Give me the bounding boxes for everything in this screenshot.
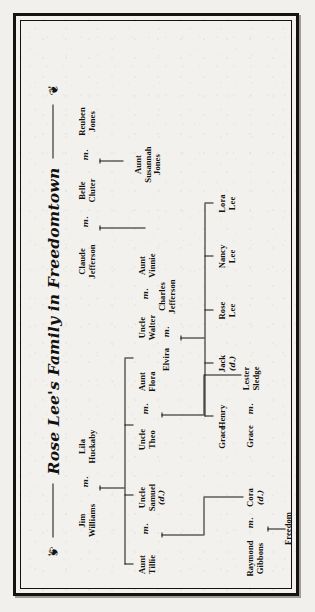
person-line-2: Williams [87, 492, 97, 548]
deceased-marker: (d.) [156, 471, 166, 523]
person-line-2: Lee [227, 180, 237, 226]
person-line-1: Raymond [245, 530, 255, 586]
chart-title-row: ❦ Rose Lee's Family in Freedomtown ❦ [39, 33, 65, 608]
person-line-1: Elvira [161, 338, 171, 380]
person-line-2: Vinnie [147, 243, 157, 287]
person-line-1: Uncle [137, 416, 147, 462]
sibling-tick-theo [124, 494, 133, 495]
person-lora-lee: Lora Lee [217, 180, 236, 226]
person-uncle-samuel: Uncle Samuel (d.) [137, 471, 166, 523]
sibling-tick-nancy [204, 255, 213, 256]
sibling-tick-jack [204, 362, 213, 363]
person-line-1: Nancy [217, 232, 227, 280]
person-cora: Cora (d.) [245, 478, 264, 516]
person-freedom: Freedom [283, 504, 293, 552]
title-rule-left [52, 483, 53, 537]
person-line-2: Lee [227, 232, 237, 280]
sibling-tick-tillie [124, 563, 133, 564]
person-line-2: Walter [147, 302, 157, 352]
person-line-1: Lester [241, 354, 251, 402]
person-line-1: Grace [245, 416, 255, 456]
person-line-2: Gibbons [255, 530, 265, 586]
person-uncle-walter: Uncle Walter [137, 302, 156, 352]
person-aunt-vinnie: Aunt Vinnie [137, 243, 156, 287]
person-line-1: Jack [217, 340, 227, 386]
person-grace: Grace [217, 416, 227, 458]
person-line-1: Lora [217, 180, 227, 226]
person-line-2: Huckaby [87, 418, 97, 474]
person-line-1: Aunt [137, 360, 147, 402]
person-line-1: Uncle [137, 302, 147, 352]
descent-drop-williams [99, 487, 124, 488]
descent-drop-claude-belle [99, 227, 145, 228]
sibling-tick-lora [204, 202, 213, 203]
person-reuben-jones: Reuben Jones [77, 94, 96, 148]
descent-drop-grace [203, 374, 241, 375]
person-jim-williams: Jim Williams [77, 492, 96, 548]
descent-link-raymond [203, 497, 204, 535]
descent-drop-belle-reuben [99, 160, 123, 161]
sibling-tick-elvira [124, 357, 133, 358]
title-rule-right [52, 104, 53, 158]
family-tree-canvas: ❦ Rose Lee's Family in Freedomtown ❦ Jim… [33, 33, 311, 608]
person-line-2: Sledge [251, 354, 261, 402]
descent-drop-raymond [203, 496, 243, 497]
person-line-1: Claude [77, 232, 87, 290]
marriage-symbol-belle-reuben: m. [80, 149, 89, 160]
person-aunt-flora: Aunt Flora [137, 360, 156, 402]
person-belle-cluter: Belle Cluter [77, 165, 96, 215]
person-jack: Jack (d.) [217, 340, 236, 386]
marriage-symbol-tillie-samuel: m. [140, 523, 149, 534]
person-rose-lee: Rose Lee [217, 287, 236, 333]
person-claude-jefferson: Claude Jefferson [77, 232, 96, 290]
sibling-tick-rose [204, 309, 213, 310]
person-line-2: Tillie [147, 537, 157, 591]
page-title: Rose Lee's Family in Freedomtown [43, 167, 62, 474]
person-line-1: Lila [77, 418, 87, 474]
fleuron-ornament-right: ❦ [44, 83, 59, 96]
marriage-symbol-grace-lester: m. [245, 403, 254, 414]
descent-drop-elvira-charles [180, 337, 204, 338]
person-line-1: Aunt [137, 537, 147, 591]
deceased-marker: (d.) [227, 340, 237, 386]
marriage-symbol-claude-belle: m. [80, 216, 89, 227]
descent-link-grace [203, 375, 204, 415]
fleuron-ornament-left: ❦ [44, 545, 59, 558]
person-line-2: Flora [147, 360, 157, 402]
sibling-tick-walter [124, 424, 133, 425]
sibling-tick-henry [204, 415, 213, 416]
person-line-1: Cora [245, 478, 255, 516]
person-line-1: Charles [157, 268, 167, 324]
descent-drop-theo-flora [161, 414, 203, 415]
marriage-symbol-theo-flora: m. [140, 403, 149, 414]
person-line-2: Jones [87, 94, 97, 148]
person-line-2: Lee [227, 287, 237, 333]
marriage-symbol-elvira-charles: m. [161, 326, 170, 337]
person-charles-jefferson: Charles Jefferson [157, 268, 176, 324]
person-line-1: Aunt [137, 243, 147, 287]
person-raymond-gibbons: Raymond Gibbons [245, 530, 264, 586]
person-line-1: Belle [77, 165, 87, 215]
person-elvira: Elvira [161, 338, 171, 380]
person-line-2: Samuel [147, 471, 157, 523]
marriage-symbol-raymond-cora: m. [245, 517, 254, 528]
person-lila-huckaby: Lila Huckaby [77, 418, 96, 474]
person-line-2: Jefferson [87, 232, 97, 290]
person-grace-row: Grace [245, 416, 255, 456]
person-lester-sledge: Lester Sledge [241, 354, 260, 402]
decorative-frame-outer: ❦ Rose Lee's Family in Freedomtown ❦ Jim… [13, 13, 299, 596]
page-background: ❦ Rose Lee's Family in Freedomtown ❦ Jim… [0, 0, 315, 612]
person-line-1: Grace [217, 416, 227, 458]
sibling-bus-williams [124, 358, 125, 564]
marriage-symbol-jim-lila: m. [80, 476, 89, 487]
person-line-1: Uncle [137, 471, 147, 523]
person-uncle-theo: Uncle Theo [137, 416, 156, 462]
marriage-symbol-walter-vinnie: m. [140, 288, 149, 299]
descent-drop-tillie-samuel [161, 534, 203, 535]
person-line-1: Reuben [77, 94, 87, 148]
person-aunt-susannah-jones: Aunt Susannah Jones [133, 134, 162, 194]
person-line-2: Theo [147, 416, 157, 462]
person-line-2: Cluter [87, 165, 97, 215]
person-line-3: Jones [152, 134, 162, 194]
person-line-1: Jim [77, 492, 87, 548]
